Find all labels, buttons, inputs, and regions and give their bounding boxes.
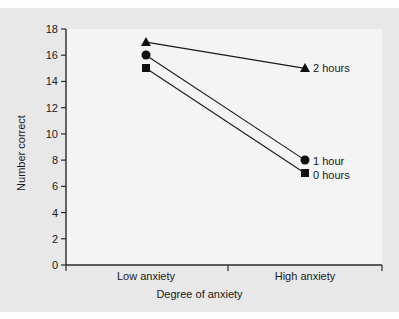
data-point-circle (301, 156, 310, 165)
data-point-square (142, 64, 150, 72)
y-tick-label: 14 (34, 75, 58, 87)
series-label-0-hours: 0 hours (313, 169, 350, 181)
y-tick-label: 6 (34, 180, 58, 192)
chart-figure: 024681012141618 Number correct Low anxie… (0, 0, 399, 319)
y-tick-label-layer: 024681012141618 (28, 0, 58, 319)
y-tick-label: 2 (34, 233, 58, 245)
data-point-circle (142, 51, 151, 60)
series-line-2-hours (146, 42, 305, 68)
y-tick-label: 0 (34, 259, 58, 271)
y-tick-label: 18 (34, 23, 58, 35)
series-line-1-hour (146, 55, 305, 160)
y-tick-marks (61, 29, 66, 265)
y-tick-label: 4 (34, 207, 58, 219)
y-tick-label: 12 (34, 102, 58, 114)
data-point-triangle (141, 37, 151, 46)
series-label-2-hours: 2 hours (313, 62, 350, 74)
series-label-1-hour: 1 hour (313, 155, 344, 167)
x-tick-label-high-anxiety: High anxiety (275, 270, 336, 282)
x-tick-label-low-anxiety: Low anxiety (117, 270, 175, 282)
y-axis-title: Number correct (15, 88, 27, 218)
data-point-triangle (300, 63, 310, 72)
series-lines (146, 42, 305, 173)
data-point-square (301, 169, 309, 177)
x-axis-title: Degree of anxiety (0, 288, 399, 300)
series-line-0-hours (146, 68, 305, 173)
y-tick-label: 10 (34, 128, 58, 140)
y-tick-label: 8 (34, 154, 58, 166)
y-tick-label: 16 (34, 49, 58, 61)
